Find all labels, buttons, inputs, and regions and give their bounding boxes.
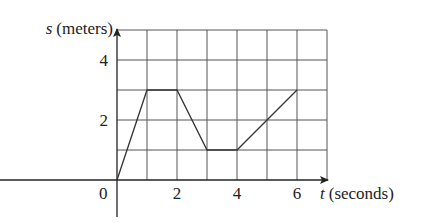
origin-label: 0 — [99, 184, 108, 203]
xtick-label-2: 2 — [173, 184, 182, 203]
axes — [0, 29, 328, 217]
y-axis-unit: (meters) — [56, 19, 113, 38]
grid-lines — [117, 30, 327, 180]
ytick-label-2: 2 — [100, 111, 109, 130]
x-axis-variable: t — [320, 184, 326, 203]
axis-labels: s(meters) t(seconds) 0 2 4 6 2 4 — [46, 19, 394, 203]
ytick-label-4: 4 — [100, 51, 109, 70]
y-axis-variable: s — [46, 19, 53, 38]
y-axis-label: s(meters) — [46, 19, 113, 38]
x-axis-unit: (seconds) — [329, 184, 394, 203]
position-time-graph: s(meters) t(seconds) 0 2 4 6 2 4 — [0, 0, 430, 223]
xtick-label-6: 6 — [293, 184, 302, 203]
x-axis-label: t(seconds) — [320, 184, 394, 203]
xtick-label-4: 4 — [233, 184, 242, 203]
